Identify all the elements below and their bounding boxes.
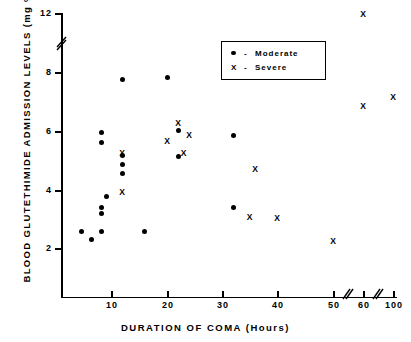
data-point-moderate [142, 229, 147, 234]
data-point-severe: X [359, 102, 367, 110]
data-point-moderate [120, 162, 125, 167]
data-point-moderate [99, 205, 104, 210]
data-point-severe: X [180, 149, 188, 157]
data-point-moderate [120, 77, 125, 82]
data-point-moderate [79, 229, 84, 234]
data-point-severe: X [118, 149, 126, 157]
data-point-moderate [89, 237, 94, 242]
data-point-severe: X [174, 119, 182, 127]
data-point-moderate [99, 140, 104, 145]
data-point-moderate [120, 171, 125, 176]
data-point-moderate [231, 205, 236, 210]
data-point-severe: X [251, 165, 259, 173]
data-point-moderate [99, 229, 104, 234]
data-point-severe: X [389, 93, 397, 101]
data-points-layer: XXXXXXXXXXXXX [0, 0, 411, 342]
data-point-moderate [231, 133, 236, 138]
data-point-moderate [165, 75, 170, 80]
data-point-moderate [99, 130, 104, 135]
data-point-moderate [104, 194, 109, 199]
scatter-plot-figure: 12 8 6 4 2 10 20 30 40 50 60 100 BLOOD G… [0, 0, 411, 342]
data-point-moderate [99, 211, 104, 216]
data-point-moderate [176, 128, 181, 133]
data-point-severe: X [246, 213, 254, 221]
data-point-severe: X [118, 188, 126, 196]
data-point-severe: X [273, 214, 281, 222]
data-point-severe: X [329, 237, 337, 245]
data-point-severe: X [163, 137, 171, 145]
data-point-severe: X [185, 131, 193, 139]
data-point-severe: X [359, 10, 367, 18]
